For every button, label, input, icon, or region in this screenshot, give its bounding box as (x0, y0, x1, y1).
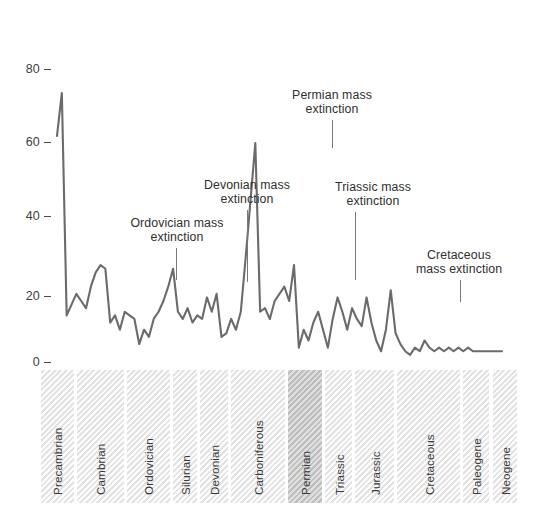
geologic-period-axis: PrecambrianCambrianOrdovicianSilurianDev… (0, 0, 534, 521)
period-label-jurassic: Jurassic (368, 451, 381, 495)
period-label-permian: Permian (299, 451, 312, 495)
period-band-permian: Permian (288, 370, 322, 503)
period-label-carboniferous: Carboniferous (252, 420, 265, 495)
period-band-ordovician: Ordovician (127, 370, 171, 503)
period-label-precambrian: Precambrian (51, 428, 64, 495)
period-band-devonian: Devonian (200, 370, 229, 503)
period-band-precambrian: Precambrian (41, 370, 74, 503)
period-label-ordovician: Ordovician (142, 438, 155, 495)
period-band-jurassic: Jurassic (355, 370, 394, 503)
period-band-neogene: Neogene (493, 370, 517, 503)
period-label-silurian: Silurian (178, 455, 191, 495)
extinction-rate-chart: 80 60 40 20 0 Ordovician mass extinction… (0, 0, 534, 521)
period-label-cambrian: Cambrian (94, 444, 107, 495)
period-label-triassic: Triassic (332, 454, 345, 495)
period-band-cretaceous: Cretaceous (397, 370, 460, 503)
period-label-cretaceous: Cretaceous (422, 434, 435, 495)
period-band-cambrian: Cambrian (77, 370, 124, 503)
period-band-triassic: Triassic (325, 370, 352, 503)
period-label-neogene: Neogene (498, 447, 511, 495)
period-band-carboniferous: Carboniferous (231, 370, 285, 503)
period-band-silurian: Silurian (173, 370, 196, 503)
period-label-paleogene: Paleogene (470, 438, 483, 495)
period-label-devonian: Devonian (207, 445, 220, 495)
period-band-paleogene: Paleogene (463, 370, 490, 503)
